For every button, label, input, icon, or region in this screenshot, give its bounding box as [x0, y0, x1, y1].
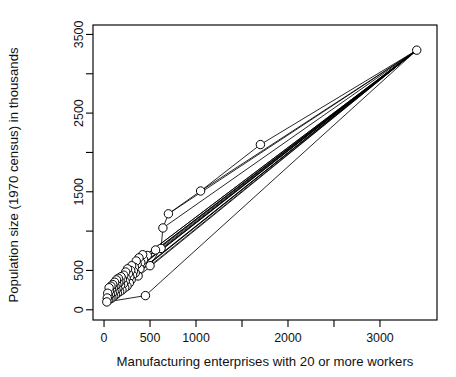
y-tick-label: 2500 — [72, 99, 86, 127]
y-tick-label: 1500 — [72, 178, 86, 206]
data-point — [151, 246, 159, 254]
data-point — [159, 224, 167, 232]
plot-canvas: 0500100020003000 0500150025003500 Manufa… — [0, 0, 456, 377]
y-tick-label: 3500 — [72, 21, 86, 49]
x-axis-title: Manufacturing enterprises with 20 or mor… — [117, 354, 414, 369]
x-tick-label: 500 — [140, 331, 161, 345]
data-point — [413, 46, 421, 54]
x-tick-label: 2000 — [274, 331, 302, 345]
y-axis-ticks-group: 0500150025003500 — [72, 21, 93, 314]
data-point — [103, 298, 111, 306]
y-tick-label: 500 — [72, 260, 86, 281]
x-tick-label: 0 — [101, 331, 108, 345]
x-tick-label: 1000 — [182, 331, 210, 345]
data-point — [146, 262, 154, 270]
data-point — [141, 291, 149, 299]
y-tick-label: 0 — [72, 306, 86, 313]
scatter-plot-figure: 0500100020003000 0500150025003500 Manufa… — [0, 0, 456, 377]
data-point — [256, 140, 264, 148]
data-point — [164, 210, 172, 218]
x-axis-ticks-group: 0500100020003000 — [101, 320, 394, 345]
data-point — [196, 187, 204, 195]
y-axis-title: Population size (1970 census) in thousan… — [6, 47, 21, 303]
x-tick-label: 3000 — [366, 331, 394, 345]
